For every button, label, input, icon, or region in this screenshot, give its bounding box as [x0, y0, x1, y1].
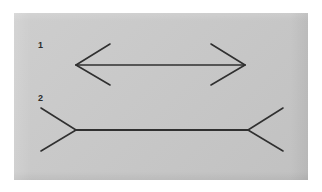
- figure-1-right-fin-lower: [211, 65, 245, 85]
- illusion-line-drawing: [14, 13, 308, 180]
- figure-1-label: 1: [38, 41, 43, 50]
- figure-1-right-fin-upper: [211, 44, 245, 65]
- muller-lyer-illusion-figure: 1 2: [0, 0, 322, 192]
- figure-2-left-fin-upper: [41, 108, 76, 130]
- figure-2-left-fin-lower: [41, 130, 76, 151]
- illustration-plate: 1 2: [14, 13, 308, 180]
- figure-2-right-fin-lower: [248, 130, 283, 151]
- figure-1-left-fin-upper: [76, 44, 110, 65]
- figure-2-group: [41, 108, 283, 151]
- figure-1-left-fin-lower: [76, 65, 110, 85]
- figure-2-label: 2: [38, 94, 43, 103]
- figure-2-right-fin-upper: [248, 108, 283, 130]
- figure-1-group: [76, 44, 245, 85]
